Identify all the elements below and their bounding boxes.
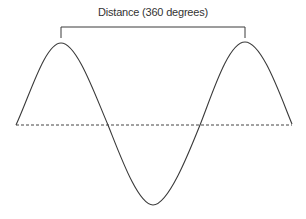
sine-wave — [16, 42, 292, 205]
wavelength-bracket — [61, 27, 245, 38]
sine-wave-diagram — [0, 0, 306, 219]
